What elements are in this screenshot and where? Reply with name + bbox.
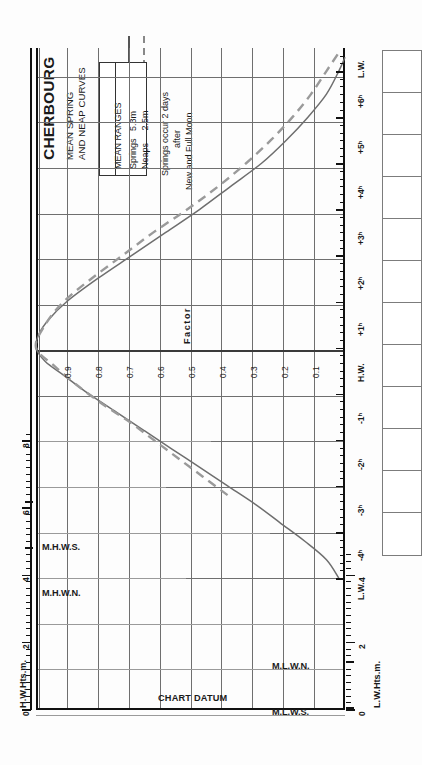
time-tick-minor (340, 386, 345, 387)
lw-tick-minor (346, 622, 351, 623)
time-tick-minor (340, 263, 345, 264)
time-tick-minor (340, 363, 345, 364)
time-tick-minor (340, 225, 345, 226)
lw-tick-minor (346, 588, 351, 589)
lw-tick-minor (346, 581, 351, 582)
lw-tick-minor (346, 595, 351, 596)
time-tick-major (336, 117, 345, 119)
time-tick-major (336, 255, 345, 257)
lw-tick-minor (346, 554, 351, 555)
hw-tick-minor (26, 481, 31, 482)
time-tick-minor (340, 194, 345, 195)
hw-tick-minor (26, 595, 31, 596)
time-label-minus4: -4ʰ (356, 550, 366, 561)
lw-tick-minor (346, 615, 351, 616)
time-tick-minor (340, 340, 345, 341)
lw-tick-minor (346, 628, 351, 629)
time-tick-major (336, 486, 345, 488)
hw-tick-minor (26, 588, 31, 589)
lw-tick-minor (346, 689, 351, 690)
time-tick-minor (340, 409, 345, 410)
time-tick-major (336, 394, 345, 396)
time-entry-box[interactable] (382, 386, 422, 430)
hw-tick-minor (26, 561, 31, 562)
time-tick-minor (340, 179, 345, 180)
hw-tick-minor (26, 528, 31, 529)
time-tick-minor (340, 332, 345, 333)
time-tick-minor (340, 317, 345, 318)
hw-tick-minor (26, 501, 31, 502)
time-entry-box[interactable] (382, 302, 422, 346)
hw-tick-minor (26, 649, 31, 650)
time-entry-box[interactable] (382, 134, 422, 178)
time-label-minus1: -1ʰ (356, 413, 366, 424)
time-entry-box[interactable] (382, 470, 422, 514)
time-tick-minor (340, 378, 345, 379)
lw-label-4: 4 (357, 577, 367, 582)
hw-tick-minor (26, 602, 31, 603)
mark-mhwn: M.H.W.N. (42, 588, 81, 598)
factor-tick-0.4: 0.4 (218, 366, 228, 378)
time-label-plus5: +5ʰ (356, 141, 366, 154)
time-entry-box[interactable] (382, 344, 422, 388)
hw-tick-minor (26, 628, 31, 629)
time-entry-box[interactable] (382, 92, 422, 136)
time-tick-minor (340, 125, 345, 126)
time-tick-minor (340, 501, 345, 502)
hw-tick-minor (26, 548, 31, 549)
time-tick-minor (340, 86, 345, 87)
time-tick-minor (340, 286, 345, 287)
time-tick-minor (340, 563, 345, 564)
time-tick-minor (340, 570, 345, 571)
hw-tick-minor (26, 702, 31, 703)
mark-mlws: M.L.W.S. (272, 707, 309, 717)
time-tick-minor (340, 186, 345, 187)
time-tick-major (336, 209, 345, 211)
time-tick-minor (340, 133, 345, 134)
time-tick-minor (340, 56, 345, 57)
time-label-plus1: +1ʰ (356, 323, 366, 336)
lw-tick-minor (346, 675, 351, 676)
time-label-lw-bottom: L.W. (356, 582, 366, 600)
time-entry-box[interactable] (382, 176, 422, 220)
time-label-plus2: +2ʰ (356, 277, 366, 290)
lw-tick-minor (346, 662, 351, 663)
time-entry-box[interactable] (382, 428, 422, 472)
factor-tick-0.2: 0.2 (280, 366, 290, 378)
hw-tick-minor (26, 541, 31, 542)
time-tick-minor (340, 509, 345, 510)
factor-tick-0.7: 0.7 (125, 366, 135, 378)
time-entry-box[interactable] (382, 50, 422, 94)
time-entry-box[interactable] (382, 260, 422, 304)
time-label-lw-top: L.W. (356, 60, 366, 78)
time-entry-box[interactable] (382, 512, 422, 556)
hw-tick-minor (26, 434, 31, 435)
lw-tick-minor (346, 669, 351, 670)
hw-tick-minor (26, 487, 31, 488)
hw-tick-minor (26, 454, 31, 455)
time-tick-minor (340, 524, 345, 525)
lw-tick-2 (346, 642, 355, 644)
time-tick-minor (340, 102, 345, 103)
time-label-hw: H.W. (356, 363, 366, 382)
time-tick-minor (340, 240, 345, 241)
time-tick-minor (340, 555, 345, 556)
hw-tick-6 (22, 507, 31, 509)
time-tick-minor (340, 517, 345, 518)
mark-mhws: M.H.W.S. (42, 542, 80, 552)
lw-label-2: 2 (357, 644, 367, 649)
time-tick-major (336, 532, 345, 534)
neap-curve (36, 53, 339, 496)
time-tick-major (336, 440, 345, 442)
hw-tick-minor (26, 581, 31, 582)
factor-tick-0.6: 0.6 (156, 366, 166, 378)
lw-tick-4 (346, 575, 355, 577)
time-tick-minor (340, 355, 345, 356)
hw-tick-minor (26, 467, 31, 468)
time-tick-minor (340, 217, 345, 218)
lw-mark-tick-mlws (346, 707, 354, 709)
time-tick-minor (340, 232, 345, 233)
time-tick-minor (340, 94, 345, 95)
time-tick-minor (340, 79, 345, 80)
time-entry-box[interactable] (382, 218, 422, 262)
